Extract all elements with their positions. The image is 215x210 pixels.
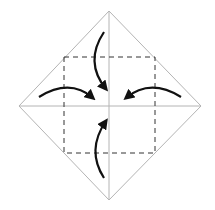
right-corner-arrow-icon [126,88,181,98]
top-corner-arrow-icon [94,32,106,89]
bottom-corner-arrow-icon [95,121,106,178]
origami-diagram [0,0,215,210]
left-corner-arrow-icon [39,88,93,98]
